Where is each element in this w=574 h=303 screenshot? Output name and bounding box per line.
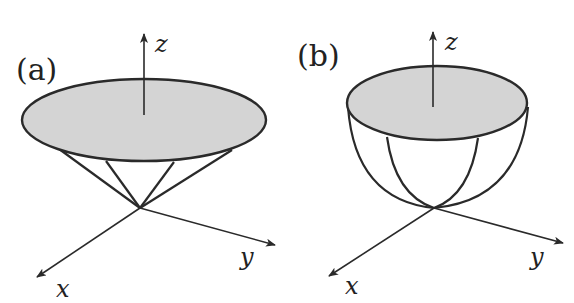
y-label-a: y — [239, 243, 254, 271]
panel-a-cone: (a) z x y — [16, 30, 275, 303]
x-label-b: x — [345, 272, 359, 300]
paraboloid-top-disk — [347, 66, 527, 140]
panel-b-paraboloid: (b) z x y — [297, 28, 563, 300]
z-label-b: z — [444, 28, 458, 56]
panel-label-b: (b) — [297, 38, 340, 73]
x-axis-a — [37, 208, 140, 277]
y-label-b: y — [529, 243, 544, 271]
x-label-a: x — [56, 275, 70, 303]
panel-label-a: (a) — [16, 52, 57, 87]
x-axis-b — [329, 208, 434, 276]
z-label-a: z — [154, 30, 168, 58]
y-axis-a — [140, 208, 275, 245]
y-axis-b — [434, 208, 563, 243]
figure: (a) z x y (b) z x y — [0, 0, 574, 303]
